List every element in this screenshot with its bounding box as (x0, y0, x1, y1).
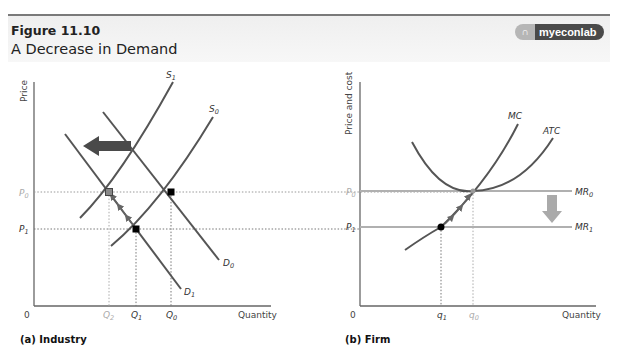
d1-label: D1 (184, 287, 195, 299)
industry-p1-tick: P1 (19, 224, 29, 236)
mc-path-arrow-icon (462, 196, 469, 205)
mr-decrease-arrow-icon (542, 195, 562, 223)
s0-label: S0 (209, 104, 219, 116)
long-run-equilibrium-point (106, 189, 113, 196)
industry-panel: Price Quantity 0 P0 P1 Q2 Q1 Q0 S1 S0 D0… (19, 70, 473, 322)
q0-firm-tick: q0 (469, 310, 479, 322)
firm-short-run-point (438, 224, 445, 231)
q2-tick: Q2 (103, 310, 114, 322)
d1-path-arrow-icon (127, 217, 134, 226)
industry-p0-tick: P0 (19, 188, 29, 200)
industry-x-label: Quantity (238, 310, 278, 320)
mr1-label: MR1 (575, 222, 593, 234)
chart-canvas: Price Quantity 0 P0 P1 Q2 Q1 Q0 S1 S0 D0… (0, 0, 617, 363)
firm-origin: 0 (350, 310, 356, 320)
firm-y-label: Price and cost (344, 71, 354, 135)
q1-tick: Q1 (131, 310, 142, 322)
mc-path-arrow-icon (454, 207, 461, 215)
supply-curve-s0 (111, 117, 213, 246)
firm-p1-tick: P1 (346, 222, 356, 234)
industry-caption: (a) Industry (20, 334, 87, 345)
d0-label: D0 (223, 258, 234, 270)
atc-curve (412, 138, 553, 191)
q0-tick: Q0 (166, 310, 177, 322)
d1-path-arrow-icon (119, 206, 126, 215)
firm-long-run-point (471, 189, 476, 194)
d1-path-arrow-icon (112, 196, 118, 204)
firm-caption: (b) Firm (345, 334, 390, 345)
s1-label: S1 (166, 70, 176, 82)
firm-p0-tick: P0 (346, 187, 356, 199)
q1-firm-tick: q1 (437, 310, 447, 322)
firm-x-label: Quantity (562, 310, 602, 320)
short-run-equilibrium-point (133, 226, 140, 233)
firm-panel: Price and cost Quantity 0 P0 P1 q1 q0 MC… (344, 71, 602, 322)
mr0-label: MR0 (575, 187, 593, 199)
atc-label: ATC (542, 126, 561, 136)
initial-equilibrium-point (168, 189, 175, 196)
mc-curve (405, 124, 518, 250)
mc-path-arrow-icon (445, 217, 452, 224)
industry-y-label: Price (19, 80, 29, 102)
mc-label: MC (508, 111, 523, 121)
industry-origin: 0 (24, 310, 30, 320)
